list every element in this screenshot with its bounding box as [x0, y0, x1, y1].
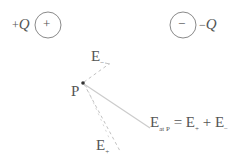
- negative-charge-label-var: Q: [206, 16, 217, 32]
- resultant-vector: [84, 84, 150, 128]
- negative-charge-label-sign: −: [199, 18, 206, 32]
- positive-charge-label-sign: +: [12, 18, 19, 32]
- e-minus-arrowhead-icon: [105, 63, 110, 64]
- eq-equals: =: [174, 114, 182, 130]
- eq-term1-subscript: +: [195, 125, 199, 133]
- point-p-label: P: [71, 84, 79, 99]
- e-plus-base: E: [96, 137, 105, 153]
- point-p-dot: [81, 81, 85, 85]
- positive-charge-label-var: Q: [19, 16, 30, 32]
- e-minus-base: E: [91, 48, 100, 64]
- e-plus-subscript: +: [105, 148, 109, 156]
- eq-term2-base: E: [215, 114, 224, 130]
- negative-charge-label: −Q: [199, 17, 217, 32]
- minus-icon: −: [178, 17, 185, 30]
- e-plus-label: E+: [96, 138, 109, 156]
- eq-lhs-base: E: [150, 114, 159, 130]
- eq-lhs-subscript: at P: [159, 125, 170, 133]
- positive-charge-label: +Q: [12, 17, 30, 32]
- e-plus-vector-edge: [86, 86, 110, 140]
- e-minus-subscript: −: [100, 59, 104, 67]
- superposition-equation: Eat P = E+ + E−: [150, 115, 228, 133]
- eq-term2-subscript: −: [224, 125, 228, 133]
- plus-icon: +: [43, 17, 50, 30]
- e-minus-label: E−: [91, 49, 104, 67]
- eq-term1-base: E: [186, 114, 195, 130]
- eq-plus: +: [203, 114, 211, 130]
